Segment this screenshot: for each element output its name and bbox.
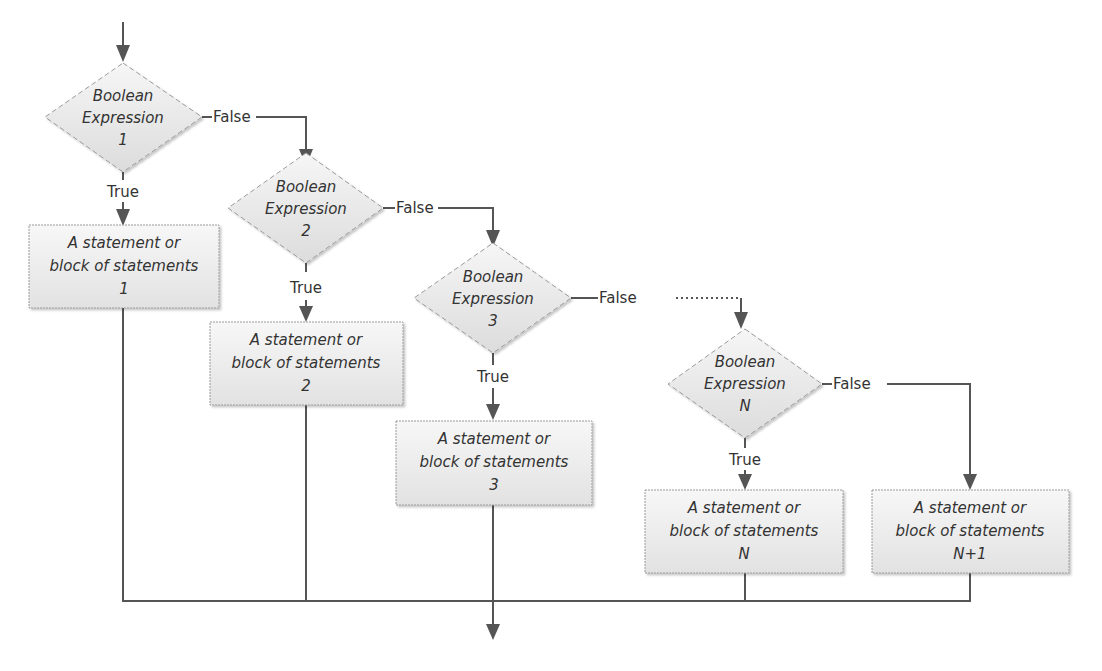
arrowhead-icon: [486, 404, 500, 420]
decision-1-line3: 1: [118, 131, 128, 149]
decision-2-line3: 2: [301, 222, 311, 240]
flowchart-canvas: Boolean Expression 1 Boolean Expression …: [0, 0, 1102, 671]
decision-3-line3: 3: [488, 312, 498, 330]
statement-3-line1: A statement or: [437, 430, 551, 448]
decision-2-line2: Expression: [265, 200, 347, 218]
statement-3-line3: 3: [489, 476, 499, 494]
arrowhead-icon: [116, 45, 130, 62]
statement-n-plus-1-line1: A statement or: [913, 499, 1027, 517]
d1-true-label: True: [106, 183, 139, 201]
statement-1-line3: 1: [119, 280, 129, 298]
arrowhead-icon: [738, 474, 752, 490]
statement-3-line2: block of statements: [420, 453, 569, 471]
decision-3-line1: Boolean: [463, 268, 524, 286]
dn-true-label: True: [728, 451, 761, 469]
statement-n-line1: A statement or: [687, 499, 801, 517]
statement-2-line3: 2: [301, 377, 311, 395]
dn-false-connector: [887, 384, 970, 480]
statement-2-line2: block of statements: [232, 354, 381, 372]
arrowhead-icon: [299, 306, 313, 322]
statement-n-plus-1-line3: N+1: [953, 545, 986, 563]
end-arrowhead-icon: [486, 624, 500, 640]
decision-n-line2: Expression: [704, 375, 786, 393]
d1-false-connector: [256, 117, 306, 155]
statement-1-line2: block of statements: [50, 257, 199, 275]
arrowhead-icon: [734, 312, 748, 329]
decision-3-line2: Expression: [452, 290, 534, 308]
decision-1-line1: Boolean: [93, 87, 154, 105]
statement-n-line2: block of statements: [670, 522, 819, 540]
d2-false-label: False: [396, 199, 434, 217]
decision-1-line2: Expression: [82, 109, 164, 127]
decision-2-line1: Boolean: [276, 178, 337, 196]
statement-n-plus-1-line2: block of statements: [896, 522, 1045, 540]
statement-1-line1: A statement or: [67, 234, 181, 252]
statement-2-line1: A statement or: [249, 331, 363, 349]
d2-true-label: True: [289, 279, 322, 297]
statement-n-line3: N: [738, 545, 749, 563]
d2-false-connector: [438, 208, 493, 236]
decision-n-line1: Boolean: [715, 353, 776, 371]
arrowhead-icon: [116, 209, 130, 226]
d3-false-label: False: [599, 289, 637, 307]
arrowhead-icon: [963, 474, 977, 490]
d3-true-label: True: [476, 368, 509, 386]
d1-false-label: False: [213, 108, 251, 126]
decision-n-line3: N: [739, 397, 750, 415]
dn-false-label: False: [833, 375, 871, 393]
